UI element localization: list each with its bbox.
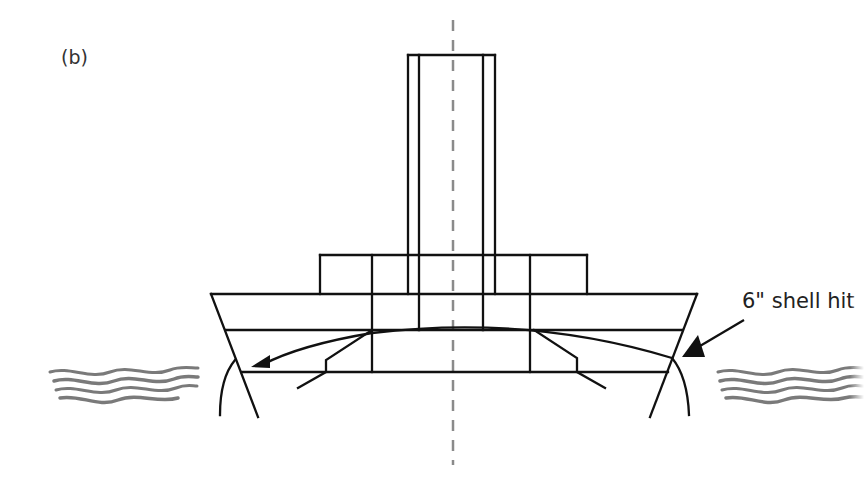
starboard-bulge <box>672 358 689 415</box>
trajectory-arrowhead <box>251 355 270 368</box>
impact-pointer-line <box>700 320 744 346</box>
port-torpedo-bulkhead <box>298 330 372 388</box>
superstructure <box>320 255 587 372</box>
port-bulge <box>220 360 235 415</box>
funnel <box>408 55 495 330</box>
port-waves <box>50 368 198 403</box>
shell-hit-annotation: 6" shell hit <box>742 289 855 313</box>
starboard-waves <box>718 368 864 403</box>
port-hull-side <box>211 294 258 417</box>
shell-trajectory <box>262 327 672 365</box>
ship-cross-section-diagram <box>0 0 864 488</box>
right-edge-fade <box>850 280 864 430</box>
panel-label: (b) <box>61 46 88 68</box>
